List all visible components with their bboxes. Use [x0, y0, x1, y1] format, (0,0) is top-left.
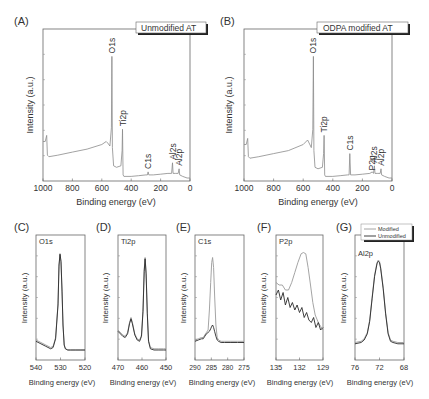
- legend-label-modified: Modified: [378, 226, 399, 232]
- x-ticks-f: 135132129: [270, 256, 330, 372]
- panel-title-a: Unmodified AT: [141, 23, 196, 33]
- spectrum-line-f-modified: [276, 253, 323, 331]
- legend-label-unmodified: Unmodified: [378, 233, 406, 239]
- spectrum-line-g-unmodified: [355, 261, 404, 344]
- y-axis-label-d: Intensity (a.u.): [101, 272, 110, 323]
- x-tick-label: 68: [400, 363, 408, 372]
- peak-label: Al2p: [376, 149, 386, 166]
- title-box-a: Unmodified AT: [136, 22, 208, 35]
- y-axis-label-f: Intensity (a.u.): [259, 272, 268, 323]
- x-axis-label-f: Binding energy (eV): [267, 378, 334, 387]
- panel-label-b: (B): [220, 15, 235, 27]
- panel-title-f: P2p: [279, 237, 292, 246]
- panel-g: (G) Al2p Modified Unmodified 767268 Bind…: [336, 221, 414, 387]
- panel-label-c: (C): [14, 221, 29, 233]
- y-axis-label-e: Intensity (a.u.): [179, 272, 188, 323]
- panel-label-f: (F): [257, 221, 271, 233]
- title-box-b: ODPA modified AT: [317, 22, 410, 35]
- panel-f: (F) P2p 135132129 Binding energy (eV) In…: [257, 221, 334, 387]
- x-tick-label: 290: [189, 364, 201, 371]
- x-tick-label: 200: [355, 183, 369, 193]
- xps-figure: (A) Unmodified AT 10008006004002000 O1sT…: [0, 0, 429, 399]
- panel-d: (D) Ti2p 470460450 Binding energy (eV) I…: [96, 221, 177, 387]
- x-tick-label: 600: [95, 183, 109, 193]
- x-axis-label-d: Binding energy (eV): [110, 378, 177, 387]
- panel-title-g: Al2p: [358, 249, 373, 258]
- panel-title-e: C1s: [198, 237, 212, 246]
- panel-title-b: ODPA modified AT: [323, 23, 393, 33]
- x-tick-label: 600: [296, 183, 310, 193]
- x-tick-label: 0: [188, 183, 193, 193]
- x-axis-label-a: Binding energy (eV): [76, 197, 156, 207]
- spectrum-line-c-unmodified: [36, 254, 85, 350]
- x-axis-label-e: Binding energy (eV): [189, 378, 256, 387]
- x-ticks-g: 767268: [351, 256, 408, 372]
- x-ticks-e: 290285280275: [189, 256, 250, 371]
- panel-label-e: (E): [176, 221, 191, 233]
- panel-title-c: O1s: [39, 237, 53, 246]
- panel-label-a: (A): [14, 15, 29, 27]
- x-ticks-c: 540530520: [30, 256, 92, 372]
- x-tick-label: 76: [351, 363, 359, 372]
- y-axis-label-c: Intensity (a.u.): [20, 272, 29, 323]
- x-tick-label: 520: [79, 363, 92, 372]
- x-axis-label-g: Binding energy (eV): [347, 378, 414, 387]
- x-tick-label: 450: [160, 363, 173, 372]
- x-tick-label: 400: [326, 183, 340, 193]
- x-tick-label: 800: [267, 183, 281, 193]
- x-tick-label: 0: [390, 183, 395, 193]
- panel-a: (A) Unmodified AT 10008006004002000 O1sT…: [14, 15, 208, 207]
- x-tick-label: 129: [317, 363, 330, 372]
- panel-e: (E) C1s 290285280275 Binding energy (eV)…: [176, 221, 256, 387]
- panel-b: (B) ODPA modified AT 10008006004002000 O…: [220, 15, 410, 207]
- x-ticks-a: 10008006004002000: [34, 54, 193, 193]
- x-tick-label: 540: [30, 363, 43, 372]
- x-axis-label-c: Binding energy (eV): [29, 378, 96, 387]
- x-ticks-d: 470460450: [112, 256, 173, 372]
- spectrum-line-e-modified: [195, 258, 244, 342]
- x-tick-label: 400: [124, 183, 138, 193]
- x-tick-label: 1000: [235, 183, 254, 193]
- peak-label: O1s: [308, 38, 318, 54]
- y-axis-label-a: Intensity (a.u.): [25, 76, 35, 133]
- legend: Modified Unmodified: [361, 224, 414, 242]
- panel-label-d: (D): [96, 221, 111, 233]
- peak-labels-b: O1sTi2pC1sP2pAl2sAl2p: [308, 38, 386, 171]
- x-tick-label: 460: [136, 363, 149, 372]
- x-tick-label: 800: [65, 183, 79, 193]
- y-axis-label-b: Intensity (a.u.): [224, 76, 234, 133]
- x-axis-label-b: Binding energy (eV): [278, 197, 358, 207]
- x-ticks-b: 10008006004002000: [235, 54, 395, 193]
- peak-label: C1s: [143, 154, 153, 169]
- plot-area-f: [276, 235, 323, 360]
- x-tick-label: 285: [206, 364, 218, 371]
- peak-labels-a: O1sTi2pC1sAl2sAl2p: [107, 38, 184, 169]
- panel-label-g: (G): [336, 221, 352, 233]
- x-tick-label: 132: [293, 363, 306, 372]
- panel-title-d: Ti2p: [121, 237, 135, 246]
- plot-area-c: [36, 235, 85, 360]
- peak-label: Al2p: [174, 149, 184, 166]
- peak-label: Ti2p: [118, 110, 128, 126]
- y-axis-label-g: Intensity (a.u.): [339, 272, 348, 323]
- plot-area-d: [118, 235, 166, 360]
- panel-c: (C) O1s 540530520 Binding energy (eV) In…: [14, 221, 96, 387]
- spectrum-line-f-unmodified: [276, 290, 323, 330]
- x-tick-label: 280: [222, 364, 234, 371]
- spectrum-line-c-modified: [36, 255, 85, 350]
- x-tick-label: 275: [238, 364, 250, 371]
- x-tick-label: 200: [154, 183, 168, 193]
- spectrum-line-g-modified: [355, 260, 404, 343]
- x-tick-label: 530: [54, 363, 67, 372]
- peak-label: O1s: [107, 38, 117, 54]
- spectrum-line-e-unmodified: [195, 325, 244, 343]
- x-tick-label: 470: [112, 363, 125, 372]
- x-tick-label: 1000: [34, 183, 53, 193]
- x-tick-label: 72: [375, 363, 383, 372]
- x-tick-label: 135: [270, 363, 283, 372]
- peak-label: C1s: [345, 135, 355, 150]
- peak-label: Ti2p: [319, 116, 329, 132]
